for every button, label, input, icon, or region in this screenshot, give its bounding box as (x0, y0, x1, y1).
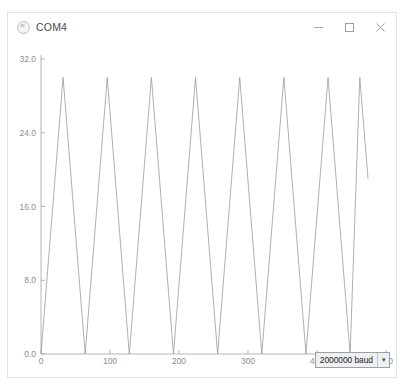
baud-rate-selector[interactable]: 2000000 baud ▾ (315, 352, 390, 368)
baud-rate-value: 2000000 baud (316, 353, 377, 367)
close-button[interactable] (365, 13, 396, 41)
y-tick-label: 16.0 (19, 202, 36, 212)
maximize-button[interactable] (334, 13, 365, 41)
window-controls (303, 13, 396, 41)
serial-plot-chart: 0.08.016.024.032.00100200300400500 (8, 41, 396, 377)
y-tick-label: 8.0 (24, 275, 36, 285)
window-title-bar: COM4 (8, 13, 396, 41)
title-bar-left: COM4 (8, 21, 67, 34)
y-tick-label: 0.0 (24, 349, 36, 359)
minimize-icon (313, 22, 324, 33)
close-icon (375, 22, 386, 33)
screenshot-root: COM4 (0, 0, 412, 390)
x-tick-label: 300 (241, 356, 255, 366)
minimize-button[interactable] (303, 13, 334, 41)
plot-area: 0.08.016.024.032.00100200300400500 (8, 41, 396, 377)
chevron-down-icon[interactable]: ▾ (377, 353, 389, 367)
serial-plotter-window: COM4 (7, 12, 397, 378)
series-line-value (41, 77, 368, 354)
x-tick-label: 0 (39, 356, 44, 366)
window-title: COM4 (36, 21, 67, 33)
x-tick-label: 100 (103, 356, 117, 366)
x-tick-label: 200 (172, 356, 186, 366)
maximize-icon (344, 22, 355, 33)
y-tick-label: 32.0 (19, 54, 36, 64)
y-tick-label: 24.0 (19, 128, 36, 138)
serial-monitor-icon (17, 21, 30, 34)
